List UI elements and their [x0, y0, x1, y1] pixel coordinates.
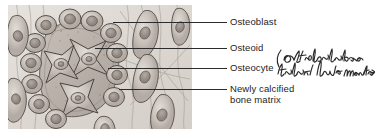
handwritten-annotation: (osteoblasts that have matured: [276, 48, 375, 84]
bone-histology-illustration: [8, 5, 192, 129]
label-bone-matrix: Newly calcified bone matrix: [230, 83, 294, 105]
leader-line-osteoid: [95, 48, 227, 49]
leader-line-osteoblast: [113, 22, 227, 23]
label-osteoid: Osteoid: [230, 42, 263, 53]
label-osteoblast: Osteoblast: [230, 16, 276, 27]
illustration-canvas: [8, 5, 192, 129]
handwriting-strokes: [276, 48, 375, 84]
label-osteocyte: Osteocyte: [230, 62, 274, 73]
leader-line-bone-matrix: [119, 89, 227, 90]
figure-page: Osteoblast Osteoid Osteocyte Newly calci…: [0, 0, 375, 137]
leader-line-osteocyte: [108, 68, 227, 69]
